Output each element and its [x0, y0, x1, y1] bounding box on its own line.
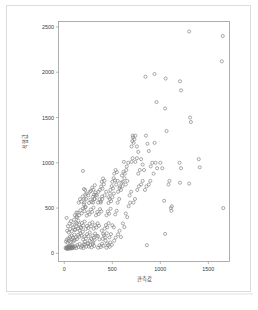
- scatter-point: [179, 167, 182, 170]
- scatter-point: [105, 232, 108, 235]
- scatter-point: [222, 207, 225, 210]
- scatter-point: [117, 190, 120, 193]
- scatter-point: [179, 89, 182, 92]
- scatter-point: [120, 174, 123, 177]
- scatter-point: [113, 239, 116, 242]
- scatter-point: [130, 145, 133, 148]
- scatter-point: [140, 183, 143, 186]
- scatter-point: [141, 179, 144, 182]
- scatter-point: [149, 165, 152, 168]
- scatter-point: [154, 161, 157, 164]
- scatter-point: [124, 183, 127, 186]
- scatter-point: [80, 212, 83, 215]
- scatter-point: [81, 169, 84, 172]
- scatter-point: [118, 229, 121, 232]
- scatter-point: [163, 199, 166, 202]
- scatter-point: [123, 177, 126, 180]
- scatter-point: [197, 158, 200, 161]
- scatter-point: [178, 80, 181, 83]
- scatter-point: [105, 190, 108, 193]
- scatter-point: [69, 228, 72, 231]
- scatter-point: [119, 236, 122, 239]
- scatter-point: [142, 168, 145, 171]
- scatter-point: [125, 168, 128, 171]
- scatter-point: [188, 30, 191, 33]
- scatter-point: [89, 225, 92, 228]
- scatter-point: [88, 231, 91, 234]
- scatter-point: [128, 194, 131, 197]
- scatter-point: [145, 244, 148, 247]
- scatter-point: [143, 188, 146, 191]
- scatter-point: [164, 77, 167, 80]
- scatter-point: [81, 230, 84, 233]
- scatter-point: [132, 201, 135, 204]
- y-tick-label: 1500: [42, 115, 54, 121]
- scatter-point: [198, 166, 201, 169]
- scatter-point: [91, 221, 94, 224]
- scatter-point: [130, 160, 133, 163]
- scatter-point: [161, 167, 164, 170]
- scatter-point: [77, 219, 80, 222]
- scatter-point: [168, 179, 171, 182]
- scatter-point: [147, 149, 150, 152]
- y-tick-label: 2500: [42, 24, 54, 30]
- scatter-point: [134, 160, 137, 163]
- scatter-point: [140, 158, 143, 161]
- scatter-point: [146, 142, 149, 145]
- scatter-point: [151, 161, 154, 164]
- scatter-point: [137, 172, 140, 175]
- y-axis-title: 적합값: [21, 134, 29, 149]
- scatter-point: [147, 183, 150, 186]
- scatter-point: [159, 161, 162, 164]
- scatter-point: [84, 197, 87, 200]
- scatter-point: [152, 172, 155, 175]
- scatter-point: [69, 220, 72, 223]
- scatter-point: [93, 184, 96, 187]
- scatter-point: [98, 238, 101, 241]
- scatter-point: [188, 182, 191, 185]
- scatter-point: [141, 163, 144, 166]
- scatter-point: [178, 181, 181, 184]
- scatter-point: [114, 213, 117, 216]
- scatter-point: [83, 220, 86, 223]
- axes-frame: [59, 22, 230, 262]
- scatter-point: [107, 222, 110, 225]
- scatter-point: [109, 233, 112, 236]
- scatter-point: [126, 179, 129, 182]
- scatter-point: [70, 230, 73, 233]
- y-tick-label: 1000: [42, 160, 54, 166]
- scatter-point: [189, 116, 192, 119]
- scatter-point: [83, 240, 86, 243]
- scatter-point: [221, 34, 224, 37]
- scatter-plot-svg: 05001000150020002500 050010001500 관측값 적합…: [0, 0, 258, 310]
- scatter-point: [153, 72, 156, 75]
- y-tick-label: 2000: [42, 69, 54, 75]
- scatter-point: [138, 168, 141, 171]
- y-axis-tick-labels: 05001000150020002500: [42, 24, 54, 256]
- scatter-point: [92, 206, 95, 209]
- scatter-point: [220, 60, 223, 63]
- scatter-point: [122, 160, 125, 163]
- scatter-point: [156, 167, 159, 170]
- scatter-point: [127, 205, 130, 208]
- scatter-point: [178, 161, 181, 164]
- scatter-point: [144, 134, 147, 137]
- scatter-point: [115, 183, 118, 186]
- scatter-point: [189, 120, 192, 123]
- x-tick-label: 0: [63, 266, 66, 272]
- scatter-point: [97, 224, 100, 227]
- x-axis-title: 관측값: [137, 275, 152, 283]
- axis-ticks: [56, 27, 208, 264]
- scatter-point: [167, 183, 170, 186]
- scatter-point: [112, 192, 115, 195]
- scatter-point: [124, 212, 127, 215]
- x-axis-tick-labels: 050010001500: [63, 266, 215, 272]
- scatter-point: [137, 150, 140, 153]
- scatter-point: [108, 236, 111, 239]
- y-tick-label: 0: [51, 250, 54, 256]
- scatter-point: [110, 243, 113, 246]
- scatter-point: [118, 197, 121, 200]
- scatter-point: [155, 101, 158, 104]
- scatter-point: [65, 216, 68, 219]
- scatter-point: [135, 145, 138, 148]
